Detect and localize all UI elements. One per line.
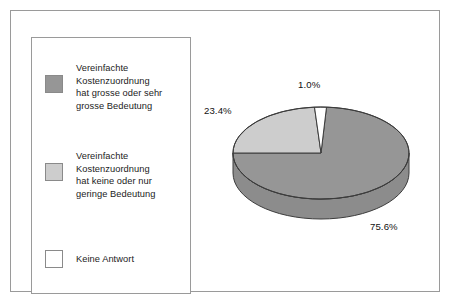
legend-label-keine-antwort: Keine Antwort bbox=[76, 253, 134, 266]
pie-graphic bbox=[201, 37, 449, 293]
pie-plot-area: 1.0% 23.4% 75.6% bbox=[201, 37, 449, 293]
legend-item-grosse-bedeutung[interactable]: Vereinfachte Kostenzuordnung hat grosse … bbox=[45, 62, 162, 112]
legend-item-keine-antwort[interactable]: Keine Antwort bbox=[45, 250, 134, 268]
pie-slice-geringe-bedeutung[interactable] bbox=[233, 107, 321, 153]
pie-chart-figure: Vereinfachte Kostenzuordnung hat grosse … bbox=[0, 0, 458, 308]
legend-label-geringe-bedeutung: Vereinfachte Kostenzuordnung hat keine o… bbox=[76, 150, 155, 200]
legend-item-geringe-bedeutung[interactable]: Vereinfachte Kostenzuordnung hat keine o… bbox=[45, 150, 155, 200]
pie-value-label-keine-antwort: 1.0% bbox=[298, 79, 320, 90]
legend-swatch-white bbox=[45, 250, 63, 268]
pie-value-label-geringe-bedeutung: 23.4% bbox=[204, 105, 232, 116]
pie-value-label-grosse-bedeutung: 75.6% bbox=[370, 221, 398, 232]
legend-swatch-light-gray bbox=[45, 163, 63, 181]
legend-swatch-dark-gray bbox=[45, 75, 63, 93]
legend-label-grosse-bedeutung: Vereinfachte Kostenzuordnung hat grosse … bbox=[76, 62, 162, 112]
chart-legend: Vereinfachte Kostenzuordnung hat grosse … bbox=[31, 37, 191, 294]
figure-border: Vereinfachte Kostenzuordnung hat grosse … bbox=[10, 10, 440, 292]
